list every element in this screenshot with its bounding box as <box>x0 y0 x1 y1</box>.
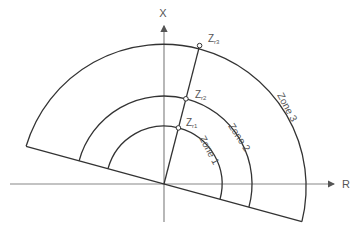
zone-2-label: Zone 2 <box>226 121 252 153</box>
zone-diagram: X R Zr1 Zr2 Zr3 Zone 1 Zone 2 Zone 3 <box>0 0 359 237</box>
label-zr3: Zr3 <box>208 33 220 45</box>
point-zr3 <box>197 43 202 48</box>
zone-2-arc <box>79 96 252 207</box>
zone-3-label: Zone 3 <box>275 91 300 124</box>
x-axis-label: X <box>159 7 167 19</box>
r-axis-label: R <box>342 178 350 190</box>
z-line <box>164 46 200 184</box>
point-zr1 <box>176 126 181 131</box>
zone-3-arc <box>26 44 306 221</box>
label-zr2: Zr2 <box>195 89 207 101</box>
zone-1-label: Zone 1 <box>197 134 222 167</box>
point-zr2 <box>184 97 189 102</box>
label-zr1: Zr1 <box>186 117 198 129</box>
